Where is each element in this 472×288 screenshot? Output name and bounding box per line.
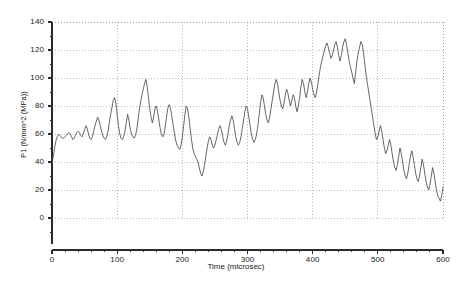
y-tick-label: 120 <box>14 45 44 54</box>
y-axis-label: P1 (N/mm^2 (MPa)) <box>19 55 28 195</box>
gridlines <box>52 22 443 218</box>
axis-ticks <box>48 22 443 254</box>
plot-canvas <box>0 0 472 288</box>
data-series-p1 <box>52 39 443 201</box>
x-axis-label: Time (microsec) <box>0 262 472 271</box>
y-tick-label: 140 <box>14 17 44 26</box>
y-tick-label: 0 <box>14 213 44 222</box>
chart-figure: 020406080100120140 0100200300400500600 T… <box>0 0 472 288</box>
